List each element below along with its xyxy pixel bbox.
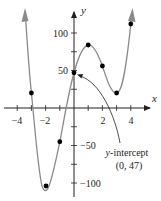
x-axis: −4 −2 2 4 x	[4, 92, 157, 126]
x-tick-label-2: 2	[101, 115, 106, 126]
y-intercept-annotation: y-intercept (0, 47)	[77, 74, 149, 172]
data-point	[29, 91, 34, 96]
data-point-y-intercept	[72, 70, 77, 75]
curve-arrow-left-icon	[22, 8, 29, 22]
annotation-line2: (0, 47)	[116, 160, 143, 172]
data-point	[86, 43, 91, 48]
data-point	[57, 139, 62, 144]
data-point	[100, 64, 105, 69]
x-tick-label-4: 4	[129, 115, 134, 126]
y-tick-label-m50: −50	[80, 140, 96, 151]
polynomial-chart: −4 −2 2 4 x 100 50 −50 −100 y	[0, 0, 161, 201]
data-point	[128, 22, 133, 27]
annotation-line1: y-intercept	[105, 147, 149, 158]
data-point	[44, 184, 49, 189]
x-tick-label-m4: −4	[12, 115, 23, 126]
y-axis: 100 50 −50 −100 y	[53, 4, 101, 197]
y-tick-label-50: 50	[58, 65, 68, 76]
annotation-arrow-icon	[77, 74, 83, 79]
curve-arrow-right-icon	[128, 8, 136, 22]
y-tick-label-m100: −100	[80, 178, 101, 189]
data-point	[114, 91, 119, 96]
x-axis-label: x	[151, 92, 157, 104]
x-tick-label-m2: −2	[40, 115, 51, 126]
y-axis-label: y	[80, 4, 86, 16]
y-tick-label-100: 100	[53, 28, 68, 39]
annotation-intercept-text: -intercept	[110, 147, 149, 158]
